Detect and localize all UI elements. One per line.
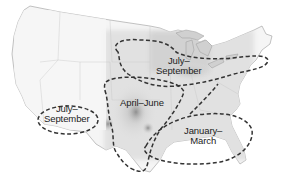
region-label-line: September (44, 114, 90, 124)
region-label-southwest: July– September (44, 104, 90, 124)
region-label-line: September (156, 66, 202, 76)
region-label-line: March (184, 136, 222, 146)
region-label-southeast: January– March (184, 126, 222, 146)
region-label-line: April–June (120, 98, 164, 108)
region-label-north-central: July– September (156, 56, 202, 76)
region-label-central: April–June (120, 98, 164, 108)
us-map (0, 0, 288, 189)
